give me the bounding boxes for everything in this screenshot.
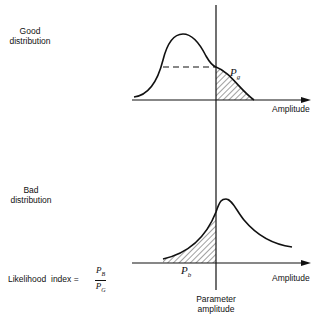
bad-distribution-label: Bad distribution: [8, 185, 54, 205]
pb-letter: P: [181, 264, 188, 276]
bottom-amplitude-label: Amplitude: [272, 273, 310, 283]
bad-label-line2: distribution: [8, 195, 54, 205]
bad-distribution-curve: [163, 199, 292, 259]
parameter-amplitude-label: Parameter amplitude: [186, 294, 246, 314]
pg-label: Pg: [230, 66, 240, 81]
pg-letter: P: [230, 66, 237, 78]
bottom-axis-arrow-icon: [301, 260, 311, 266]
pb-label: Pb: [181, 264, 191, 279]
parameter-label-line2: amplitude: [186, 304, 246, 314]
bad-label-line1: Bad: [8, 185, 54, 195]
parameter-label-line1: Parameter: [186, 294, 246, 304]
likelihood-fraction: PB PG: [95, 265, 106, 296]
pb-shaded-area: [163, 212, 216, 263]
good-label-line2: distribution: [8, 36, 52, 46]
pg-sub: g: [237, 73, 241, 81]
denominator-sub: G: [101, 287, 105, 293]
numerator-sub: B: [102, 271, 106, 277]
fraction-denominator: PG: [95, 281, 106, 296]
top-axis-arrow-icon: [301, 97, 311, 103]
pb-sub: b: [188, 271, 192, 279]
diagram-canvas: [0, 0, 325, 319]
fraction-numerator: PB: [95, 265, 106, 281]
good-distribution-label: Good distribution: [8, 26, 52, 46]
likelihood-index-text: Likelihood index =: [8, 274, 79, 284]
top-amplitude-label: Amplitude: [272, 104, 310, 114]
good-label-line1: Good: [8, 26, 52, 36]
